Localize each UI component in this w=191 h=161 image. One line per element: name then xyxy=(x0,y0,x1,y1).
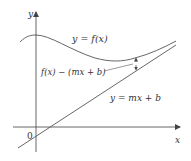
x-axis-label: x xyxy=(175,135,180,145)
difference-leader-line xyxy=(104,64,133,71)
origin-label: 0 xyxy=(27,131,33,141)
difference-label: f(x) − (mx + b) xyxy=(40,67,106,77)
asymptote-diagram: y x 0 y = f(x) f(x) − (mx + b) y = mx + … xyxy=(0,0,191,161)
y-axis-label: y xyxy=(27,9,34,19)
curve-label: y = f(x) xyxy=(71,33,108,44)
asymptote-label: y = mx + b xyxy=(109,93,161,103)
